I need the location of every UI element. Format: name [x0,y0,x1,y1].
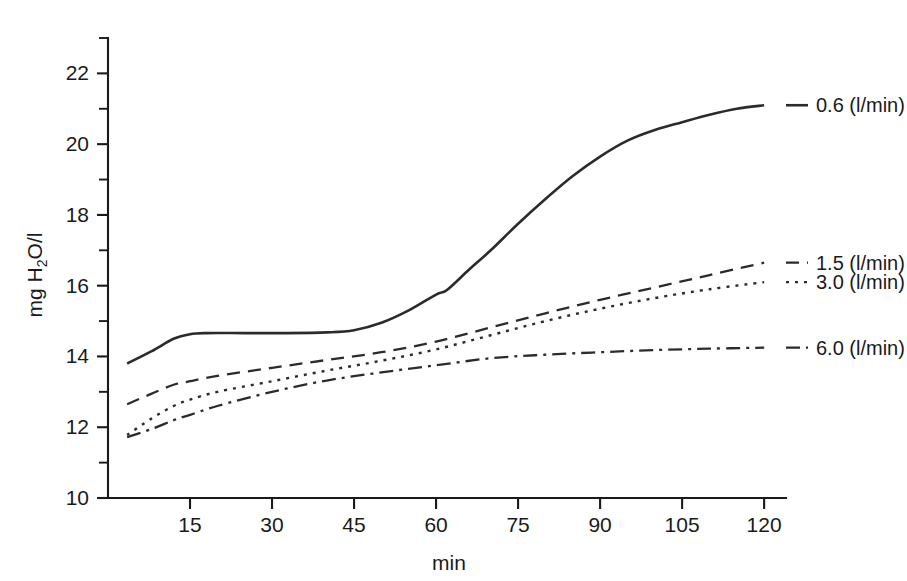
chart-background [0,0,907,581]
y-tick-label-14: 14 [66,344,90,367]
chart-figure: 10121416182022 153045607590105120 0.6 (l… [0,0,907,581]
y-tick-label-22: 22 [66,61,89,84]
x-tick-label-30: 30 [260,513,283,536]
series-label-3: 6.0 (l/min) [816,337,905,359]
x-tick-label-105: 105 [665,513,700,536]
y-axis-title: mg H2O/l [23,233,50,318]
x-axis-title: min [432,551,466,574]
y-tick-label-10: 10 [66,486,89,509]
y-tick-label-18: 18 [66,203,89,226]
x-tick-label-75: 75 [506,513,529,536]
series-label-2: 3.0 (l/min) [816,271,905,293]
x-tick-label-90: 90 [588,513,611,536]
x-tick-label-120: 120 [747,513,782,536]
y-tick-label-20: 20 [66,132,89,155]
y-tick-label-12: 12 [66,415,89,438]
svg-text:mg H2O/l: mg H2O/l [23,233,50,318]
series-label-0: 0.6 (l/min) [816,94,905,116]
x-tick-label-60: 60 [424,513,447,536]
x-tick-label-15: 15 [178,513,201,536]
line-chart-canvas: 10121416182022 153045607590105120 0.6 (l… [0,0,907,581]
x-tick-label-45: 45 [342,513,365,536]
y-tick-label-16: 16 [66,274,89,297]
